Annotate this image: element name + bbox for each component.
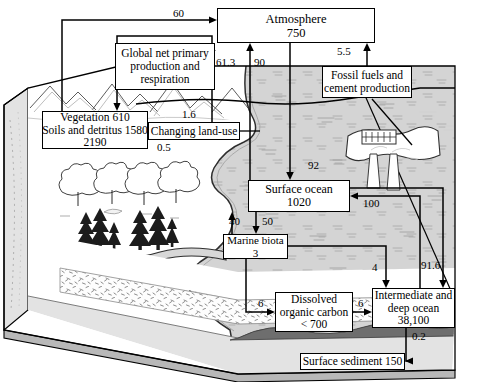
box-intermediate-deep-ocean[interactable]: Intermediate and deep ocean 38,100 [372,288,455,328]
box-sediment-line-0: Surface sediment 150 [303,355,403,368]
flux-label-60: 60 [173,8,184,19]
box-fossilfuels-line-0: Fossil fuels and [331,69,403,82]
box-doc-line-1: organic carbon [280,306,348,319]
flux-label-0-5: 0.5 [157,142,171,153]
block-left-face [4,88,28,330]
flux-label-40: 40 [229,216,240,227]
flux-label-91-6: 91.6 [421,260,440,271]
box-landuse-line-0: Changing land-use [151,125,238,138]
flux-label-6-doc-deep: 6 [358,298,364,309]
box-deepocean-line-2: 38,100 [398,314,430,327]
box-surfaceocean-line-1: 1020 [287,196,311,209]
flux-label-5-5: 5.5 [337,46,351,57]
flux-label-61-3: 61.3 [216,57,235,68]
box-fossilfuels-line-1: cement production [324,82,410,95]
flux-label-90: 90 [254,57,265,68]
flux-label-0-2: 0.2 [412,331,426,342]
box-gnpp-line-1: production and [130,60,199,73]
flux-label-50: 50 [262,216,273,227]
box-vegetation-soils[interactable]: Vegetation 610 Soils and detritus 1580 2… [42,111,148,149]
box-gnpp-line-0: Global net primary [121,47,209,60]
box-marinebiota-line-0: Marine biota [227,234,284,246]
flux-label-100: 100 [363,198,380,209]
box-doc-line-0: Dissolved [291,293,337,306]
box-vegetation-line-0: Vegetation 610 [60,111,129,124]
box-surface-ocean[interactable]: Surface ocean 1020 [248,180,350,212]
box-changing-land-use[interactable]: Changing land-use [148,122,240,140]
flux-label-6-biota-doc: 6 [258,298,264,309]
box-gnpp-line-2: respiration [140,73,189,86]
box-dissolved-organic-carbon[interactable]: Dissolved organic carbon < 700 [275,292,353,332]
box-deepocean-line-1: deep ocean [388,302,439,315]
flux-label-4: 4 [372,262,378,273]
box-global-net-primary-production[interactable]: Global net primary production and respir… [115,43,215,90]
flux-label-92: 92 [308,160,319,171]
flux-label-1-6: 1.6 [182,109,196,120]
box-surfaceocean-line-0: Surface ocean [265,183,333,196]
box-doc-line-2: < 700 [301,318,328,331]
box-deepocean-line-0: Intermediate and [375,289,453,302]
box-atmosphere-line-1: 750 [287,26,306,40]
box-marinebiota-line-1: 3 [253,247,259,259]
box-vegetation-line-1: Soils and detritus 1580 [42,124,148,137]
box-atmosphere-line-0: Atmosphere [265,12,326,26]
box-vegetation-line-2: 2190 [84,136,107,149]
box-surface-sediment[interactable]: Surface sediment 150 [300,353,405,370]
carbon-cycle-figure: Atmosphere 750 Global net primary produc… [0,0,479,382]
box-marine-biota[interactable]: Marine biota 3 [223,234,288,259]
box-atmosphere[interactable]: Atmosphere 750 [217,8,375,43]
box-fossil-fuels-cement[interactable]: Fossil fuels and cement production [322,66,412,98]
